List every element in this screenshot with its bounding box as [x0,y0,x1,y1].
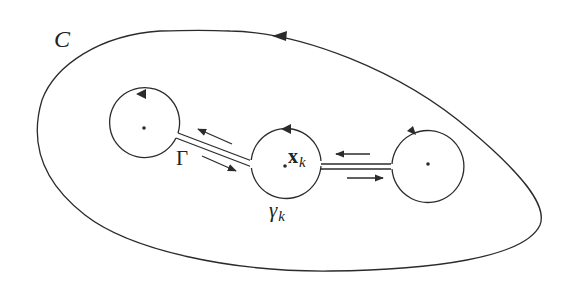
cut-label-gamma: Γ [176,148,188,169]
point-label-x: x [288,145,298,167]
outer-contour-arrow-icon [272,31,287,41]
middle-circle-arrow-icon [281,124,291,134]
left-circle-arrow-icon [136,89,146,99]
point-label-subscript: k [299,154,306,170]
middle-circle-gamma-k [251,128,321,198]
left-singular-point [142,126,146,130]
middle-singular-point-xk [283,164,287,168]
channel-gamma-arrow-down-icon [202,156,236,171]
right-circle [392,131,464,203]
right-circle-arrow-icon [407,126,416,135]
outer-contour-label: C [54,27,70,51]
circle-label-gamma: γ [269,198,277,222]
diagram-canvas [0,0,561,290]
channel-gamma-arrow-up-icon [198,129,232,144]
point-label-xk: xk [288,146,306,166]
circle-label-gamma-k: γk [269,200,285,221]
middle-circle-gamma-k-overlay-mask [250,160,254,168]
right-singular-point [426,162,430,166]
circle-label-subscript: k [278,208,285,224]
contour-diagram: C Γ xk γk [0,0,561,290]
